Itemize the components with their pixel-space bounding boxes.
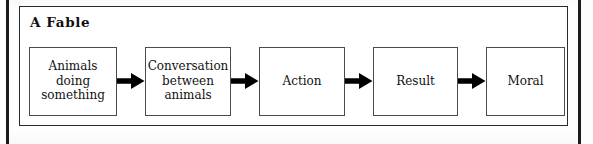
flow-node-label: Action [283,74,322,89]
flow-node-label: Result [396,74,435,89]
arrow-right-icon [117,70,145,92]
figure-frame: A Fable Animals doing something Convers [19,6,568,126]
page-edge-rule-right [578,0,581,144]
arrow-right-icon [458,70,486,92]
flow-node-label: Moral [507,74,543,89]
flow-node-conversation-between-animals: Conversation between animals [145,47,231,116]
flow-node-action: Action [259,47,345,116]
page-edge-rule-left [6,0,9,144]
flow-node-animals-doing-something: Animals doing something [29,47,117,116]
flow-node-result: Result [373,47,458,116]
flowchart: Animals doing something Conversation bet… [29,46,560,116]
flow-node-label: Animals doing something [41,59,105,103]
scanned-page: A Fable Animals doing something Convers [0,0,593,144]
arrow-right-icon [345,70,373,92]
arrow-right-icon [231,70,259,92]
figure-title: A Fable [30,14,90,30]
flow-node-label: Conversation between animals [148,59,229,103]
flow-node-moral: Moral [486,47,565,116]
